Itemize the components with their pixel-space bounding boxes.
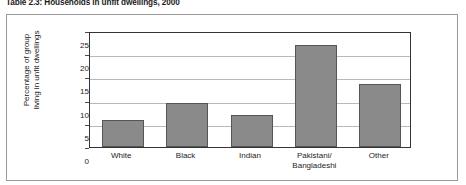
x-tick-label-white: White xyxy=(89,151,153,161)
x-tick-label-indian-line-1: Indian xyxy=(218,151,282,161)
bar-pakistani-bangladeshi xyxy=(295,45,337,147)
gridline-15 xyxy=(90,79,410,80)
gridline-20 xyxy=(90,56,410,57)
x-tick-label-black-line-1: Black xyxy=(153,151,217,161)
bar-black xyxy=(166,103,208,147)
x-tick-label-other: Other xyxy=(347,151,411,161)
x-tick-label-white-line-1: White xyxy=(89,151,153,161)
y-axis-title-line-2: living in unfit dwellings xyxy=(32,10,42,130)
x-tick-label-pakistani-line-1: Pakistani/ xyxy=(282,151,346,161)
page-title: Table 2.3: Households in unfit dwellings… xyxy=(6,0,180,8)
x-tick-label-indian: Indian xyxy=(218,151,282,161)
x-tick-label-pakistani-bangladeshi: Pakistani/ Bangladeshi xyxy=(282,151,346,170)
y-tick-mark-0 xyxy=(85,148,89,149)
chart-frame: Percentage of group living in unfit dwel… xyxy=(6,14,458,181)
bar-other xyxy=(359,84,401,147)
plot-area xyxy=(89,32,411,148)
x-axis-tick-labels: White Black Indian Pakistani/ Bangladesh… xyxy=(89,151,411,181)
y-axis-title-line-1: Percentage of group xyxy=(22,10,32,130)
bar-white xyxy=(102,120,144,147)
bar-indian xyxy=(231,115,273,147)
x-tick-label-black: Black xyxy=(153,151,217,161)
x-tick-label-other-line-1: Other xyxy=(347,151,411,161)
x-tick-label-pakistani-line-2: Bangladeshi xyxy=(282,161,346,171)
